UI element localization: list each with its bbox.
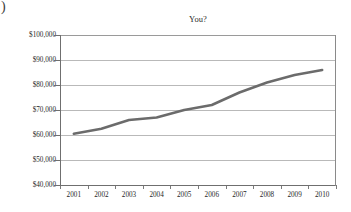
x-axis-tick-label: 2008 — [253, 191, 281, 200]
gridline — [60, 110, 336, 111]
line-chart-figure: ) You? $100,000$90,000$80,000$70,000$60,… — [0, 0, 351, 212]
y-axis-line — [60, 35, 61, 186]
x-axis-tick-label: 2002 — [87, 191, 115, 200]
y-axis-tick-label: $80,000 — [0, 81, 56, 89]
y-axis-tick-label: $70,000 — [0, 106, 56, 114]
x-axis-tick-label: 2001 — [60, 191, 88, 200]
chart-title: You? — [60, 14, 336, 24]
x-axis-tick-label: 2003 — [115, 191, 143, 200]
x-axis-tick-label: 2004 — [143, 191, 171, 200]
x-axis-tick-label: 2010 — [308, 191, 336, 200]
plot-right-border — [335, 35, 336, 186]
plot-area — [60, 35, 336, 185]
gridline — [60, 135, 336, 136]
x-axis-tick-label: 2006 — [198, 191, 226, 200]
y-axis-tick-label: $50,000 — [0, 156, 56, 164]
y-axis-tick-label: $100,000 — [0, 31, 56, 39]
x-axis-tick-label: 2005 — [170, 191, 198, 200]
gridline — [60, 160, 336, 161]
gridline — [60, 185, 336, 186]
gridline — [60, 85, 336, 86]
y-axis-tick-label: $40,000 — [0, 181, 56, 189]
x-axis-tick-label: 2009 — [281, 191, 309, 200]
stray-parenthesis-artifact: ) — [1, 0, 6, 14]
x-axis-tick-label: 2007 — [225, 191, 253, 200]
gridline — [60, 60, 336, 61]
gridline — [60, 35, 336, 36]
y-axis-tick-label: $90,000 — [0, 56, 56, 64]
y-axis-tick-label: $60,000 — [0, 131, 56, 139]
x-axis-tick-mark — [336, 185, 337, 189]
